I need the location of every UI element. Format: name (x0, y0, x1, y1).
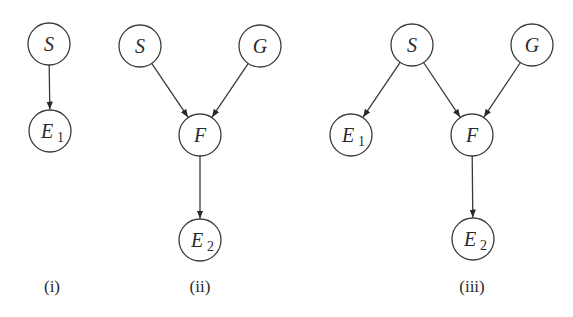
node-label: E (463, 228, 476, 250)
edge-g-to-f (484, 63, 521, 118)
panel-label: (iii) (459, 277, 485, 296)
edge-s-to-f (424, 63, 461, 118)
panel-label: (ii) (190, 277, 211, 296)
node-g: G (511, 24, 553, 66)
bayesian-network-diagram: SE1(i)SGFE2(ii)SGE1FE2(iii) (0, 0, 573, 317)
node-label: F (193, 124, 207, 146)
node-e1: E1 (330, 114, 372, 156)
node-label: G (253, 35, 268, 57)
node-f: F (451, 114, 493, 156)
node-label: S (135, 35, 145, 57)
edge-f-to-e2 (472, 156, 473, 218)
node-subscript: 1 (358, 134, 365, 149)
node-subscript: 2 (480, 238, 487, 253)
node-label: E (190, 229, 203, 251)
node-f: F (179, 114, 221, 156)
edge-s-to-e1 (49, 65, 50, 110)
node-g: G (239, 25, 281, 67)
node-s: S (119, 25, 161, 67)
panel-ii: SGFE2(ii) (119, 25, 281, 296)
edge-g-to-f (212, 63, 248, 117)
node-e2: E2 (179, 219, 221, 261)
node-label: S (407, 34, 417, 56)
node-label: E (40, 120, 53, 142)
panel-i: SE1(i) (28, 23, 71, 296)
edge-s-to-f (152, 63, 188, 117)
edge-s-to-e1 (363, 62, 400, 117)
node-label: E (341, 124, 354, 146)
node-s: S (28, 23, 70, 65)
node-s: S (391, 24, 433, 66)
diagram-panels: SE1(i)SGFE2(ii)SGE1FE2(iii) (28, 23, 553, 296)
node-subscript: 2 (207, 239, 214, 254)
node-e2: E2 (452, 218, 494, 260)
panel-label: (i) (44, 277, 60, 296)
node-label: F (465, 124, 479, 146)
node-label: S (44, 33, 54, 55)
node-e1: E1 (29, 110, 71, 152)
node-subscript: 1 (57, 130, 64, 145)
panel-iii: SGE1FE2(iii) (330, 24, 553, 296)
node-label: G (525, 34, 540, 56)
